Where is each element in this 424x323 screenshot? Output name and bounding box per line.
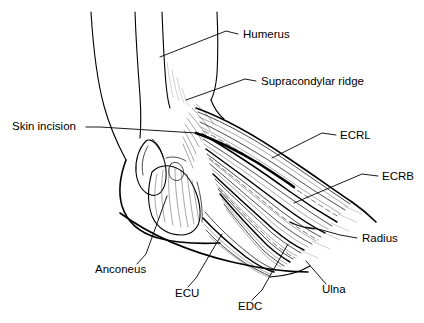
- anatomical-figure: Humerus Supracondylar ridge Skin incisio…: [0, 0, 424, 323]
- label-radius: Radius: [362, 232, 398, 244]
- label-anconeus: Anconeus: [95, 263, 146, 275]
- label-supracondylar-ridge: Supracondylar ridge: [261, 75, 364, 87]
- label-skin-incision: Skin incision: [12, 120, 76, 132]
- label-ulna: Ulna: [322, 283, 346, 295]
- label-ecrb: ECRB: [382, 170, 414, 182]
- label-humerus: Humerus: [243, 28, 290, 40]
- label-edc: EDC: [238, 300, 262, 312]
- label-ecrl: ECRL: [340, 129, 371, 141]
- label-ecu: ECU: [175, 287, 199, 299]
- elbow-lateral-approach-drawing: Humerus Supracondylar ridge Skin incisio…: [0, 0, 424, 323]
